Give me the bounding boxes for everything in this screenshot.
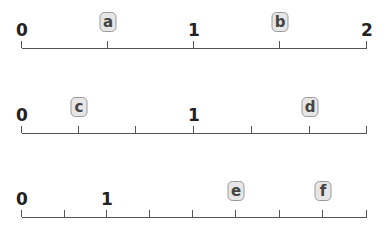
letter-label-b: b — [272, 12, 289, 32]
tick-mark — [192, 210, 193, 217]
tick-mark — [78, 126, 79, 133]
tick-mark — [366, 126, 367, 133]
tick-mark — [322, 210, 323, 217]
number-label: 0 — [16, 22, 28, 39]
tick-mark — [366, 41, 367, 48]
tick-mark — [309, 126, 310, 133]
number-label: 0 — [16, 191, 28, 208]
axis-line — [22, 217, 367, 218]
tick-mark — [21, 210, 22, 217]
tick-mark — [21, 41, 22, 48]
letter-label-f: f — [315, 181, 332, 201]
axis-line — [22, 133, 367, 134]
tick-mark — [149, 210, 150, 217]
number-label: 1 — [188, 107, 200, 124]
tick-mark — [279, 41, 280, 48]
tick-mark — [193, 41, 194, 48]
tick-mark — [251, 126, 252, 133]
number-label: 1 — [188, 22, 200, 39]
number-lines-diagram: 012ab01cd01ef — [0, 0, 390, 230]
number-label: 0 — [16, 107, 28, 124]
number-label: 1 — [101, 191, 113, 208]
tick-mark — [106, 210, 107, 217]
axis-line — [22, 48, 367, 49]
number-label: 2 — [361, 22, 373, 39]
tick-mark — [193, 126, 194, 133]
tick-mark — [21, 126, 22, 133]
tick-mark — [135, 126, 136, 133]
letter-label-d: d — [302, 97, 319, 117]
tick-mark — [279, 210, 280, 217]
tick-mark — [366, 210, 367, 217]
tick-mark — [107, 41, 108, 48]
tick-mark — [64, 210, 65, 217]
letter-label-c: c — [71, 97, 88, 117]
tick-mark — [235, 210, 236, 217]
letter-label-e: e — [228, 181, 245, 201]
letter-label-a: a — [100, 12, 117, 32]
